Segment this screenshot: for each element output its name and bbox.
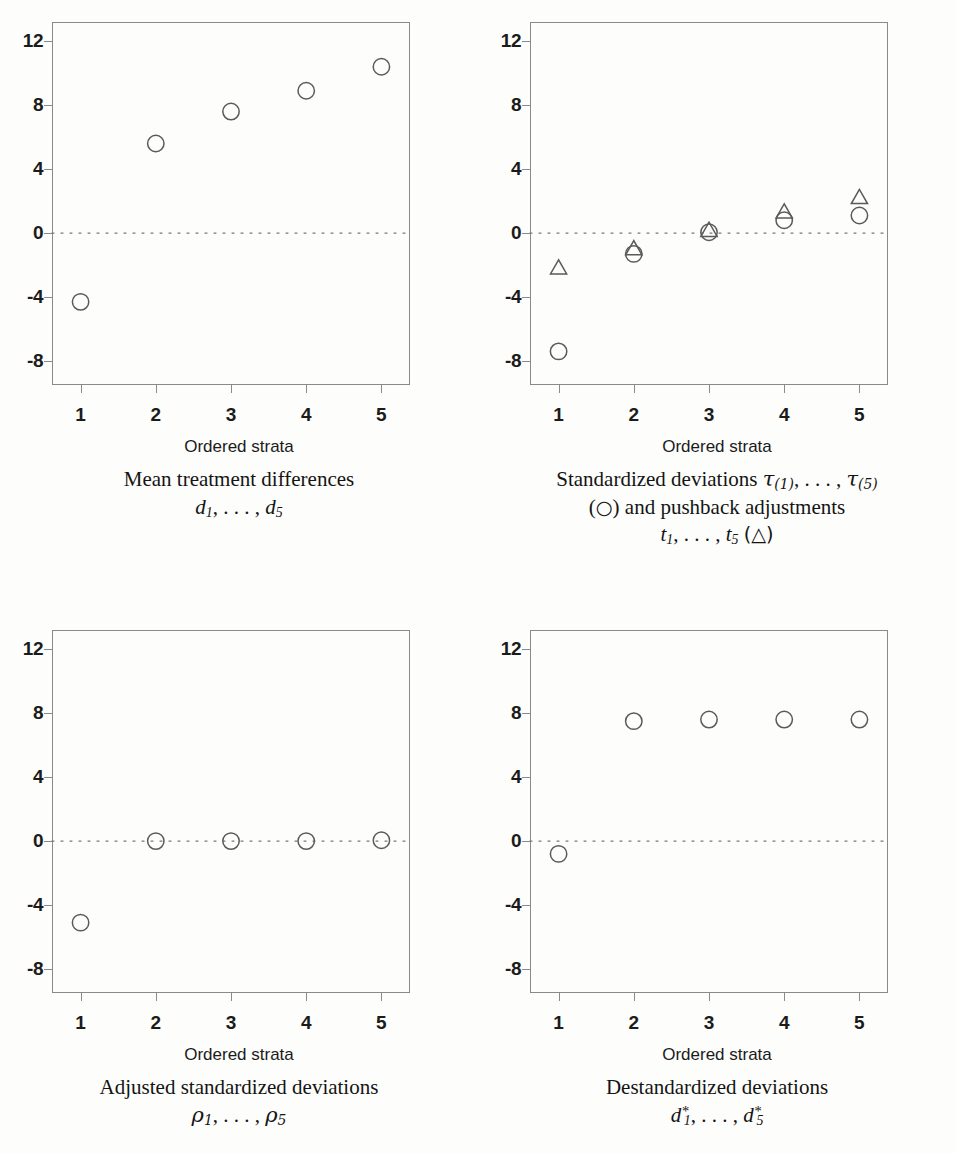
y-tick-mark — [44, 169, 52, 170]
x-tick-label: 2 — [150, 1012, 161, 1034]
axis-title-3: Ordered strata — [0, 1045, 478, 1065]
caption-1: Ordered strata Mean treatment difference… — [0, 437, 478, 522]
symbol-rho1: ρ1 — [192, 1103, 213, 1127]
y-tick-label: -4 — [27, 894, 43, 916]
paren-open: ( — [589, 495, 596, 519]
caption-line-symbols-4: d*1, . . . , d*5 — [478, 1102, 956, 1131]
x-tick-mark — [559, 993, 560, 1001]
x-tick-mark — [784, 385, 785, 393]
symbol-ellipsis-3: , . . . , — [673, 522, 720, 546]
x-tick-label: 4 — [301, 1012, 312, 1034]
data-point-circle — [851, 711, 867, 727]
x-tick-label: 1 — [553, 1012, 564, 1034]
x-tick-mark — [709, 993, 710, 1001]
caption-line-symbols-3: ρ1, . . . , ρ5 — [0, 1102, 478, 1130]
x-tick-label: 5 — [854, 1012, 865, 1034]
symbol-t5: t5 — [726, 522, 739, 546]
data-point-triangle — [851, 189, 867, 203]
data-point-circle — [550, 846, 566, 862]
y-tick-label: 12 — [23, 30, 43, 52]
y-tick-mark — [522, 41, 530, 42]
x-tick-label: 1 — [75, 1012, 86, 1034]
x-tick-mark — [156, 993, 157, 1001]
axis-title-1: Ordered strata — [0, 437, 478, 457]
y-tick-mark — [44, 649, 52, 650]
panel-mean-treatment-differences: 12840-4-8 12345 Ordered strata Mean trea… — [0, 0, 478, 600]
y-tick-mark — [44, 233, 52, 234]
x-tick-label: 2 — [628, 1012, 639, 1034]
data-point-circle — [298, 83, 314, 99]
caption-line-3-2: t1, . . . , t5 (△) — [478, 521, 956, 550]
y-tick-mark — [522, 361, 530, 362]
y-tick-label: 0 — [511, 830, 521, 852]
data-markers-3 — [52, 630, 410, 993]
x-tick-mark — [559, 385, 560, 393]
data-point-circle — [373, 59, 389, 75]
caption-4: Ordered strata Destandardized deviations… — [478, 1045, 956, 1131]
y-tick-mark — [522, 105, 530, 106]
triangle-legend-icon: (△) — [744, 523, 774, 546]
caption-line-1-2: Standardized deviations τ(1), . . . , τ(… — [478, 466, 956, 494]
data-point-circle — [550, 343, 566, 359]
data-markers-4 — [530, 630, 888, 993]
data-point-circle — [148, 135, 164, 151]
x-tick-label: 2 — [628, 404, 639, 426]
y-tick-label: 0 — [511, 222, 521, 244]
y-tick-label: -4 — [505, 286, 521, 308]
y-tick-label: -4 — [505, 894, 521, 916]
x-tick-mark — [306, 993, 307, 1001]
x-tick-mark — [784, 993, 785, 1001]
data-markers-2 — [530, 22, 888, 385]
x-tick-mark — [381, 993, 382, 1001]
axis-title-2: Ordered strata — [478, 437, 956, 457]
x-tick-mark — [231, 385, 232, 393]
symbol-d5: d5 — [265, 495, 282, 519]
y-tick-label: -8 — [505, 958, 521, 980]
data-point-circle — [626, 246, 642, 262]
y-tick-mark — [44, 969, 52, 970]
y-tick-label: 4 — [33, 766, 43, 788]
y-tick-mark — [44, 841, 52, 842]
symbol-rho5: ρ5 — [265, 1103, 286, 1127]
caption-line-2-2: (○) and pushback adjustments — [478, 494, 956, 522]
x-tick-label: 5 — [854, 404, 865, 426]
x-tick-mark — [709, 385, 710, 393]
data-point-circle — [223, 103, 239, 119]
x-tick-label: 4 — [779, 1012, 790, 1034]
data-point-circle — [701, 711, 717, 727]
y-tick-label: 8 — [511, 702, 521, 724]
y-tick-label: 0 — [33, 222, 43, 244]
caption-3: Ordered strata Adjusted standardized dev… — [0, 1045, 478, 1129]
y-tick-label: 8 — [511, 94, 521, 116]
panel-adjusted-standardized-deviations: 12840-4-8 12345 Ordered strata Adjusted … — [0, 600, 478, 1153]
circle-legend-icon: ○ — [596, 496, 613, 519]
x-tick-label: 3 — [226, 404, 237, 426]
figure-panel-grid: 12840-4-8 12345 Ordered strata Mean trea… — [0, 0, 956, 1153]
y-tick-label: -8 — [27, 958, 43, 980]
x-tick-mark — [81, 993, 82, 1001]
data-point-triangle — [550, 260, 566, 274]
y-tick-label: 12 — [23, 638, 43, 660]
y-tick-label: -8 — [27, 350, 43, 372]
x-tick-label: 3 — [704, 1012, 715, 1034]
symbol-tau-5: τ(5) — [846, 467, 877, 491]
x-tick-label: 1 — [553, 404, 564, 426]
y-tick-mark — [522, 713, 530, 714]
y-tick-mark — [522, 649, 530, 650]
data-point-circle — [626, 713, 642, 729]
x-tick-mark — [156, 385, 157, 393]
x-tick-label: 2 — [150, 404, 161, 426]
plot-area-4: 12840-4-8 12345 — [530, 630, 888, 993]
x-tick-mark — [634, 993, 635, 1001]
panel-destandardized-deviations: 12840-4-8 12345 Ordered strata Destandar… — [478, 600, 956, 1153]
x-tick-mark — [306, 385, 307, 393]
plot-area-2: 12840-4-8 12345 — [530, 22, 888, 385]
caption-text-standardized: Standardized deviations — [556, 467, 757, 491]
y-tick-label: 12 — [501, 30, 521, 52]
y-tick-mark — [522, 777, 530, 778]
x-tick-label: 4 — [779, 404, 790, 426]
caption-2: Ordered strata Standardized deviations τ… — [478, 437, 956, 550]
y-tick-mark — [522, 297, 530, 298]
symbol-t1: t1 — [660, 522, 673, 546]
y-tick-mark — [44, 713, 52, 714]
